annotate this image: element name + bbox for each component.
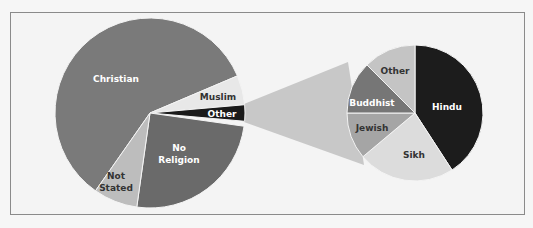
main-label: Other: [208, 109, 237, 119]
main-label: Muslim: [200, 92, 236, 102]
connector-band: [244, 62, 364, 165]
sub-label: Jewish: [355, 123, 389, 133]
sub-label: Buddhist: [349, 98, 395, 108]
main-label: Christian: [93, 74, 139, 84]
secondary-pie: [347, 45, 483, 181]
sub-label: Sikh: [403, 150, 425, 160]
pie-of-pie-chart: ChristianMuslimOtherNoReligionNotStatedH…: [0, 0, 533, 228]
sub-label: Hindu: [432, 102, 462, 112]
sub-label: Other: [381, 66, 410, 76]
